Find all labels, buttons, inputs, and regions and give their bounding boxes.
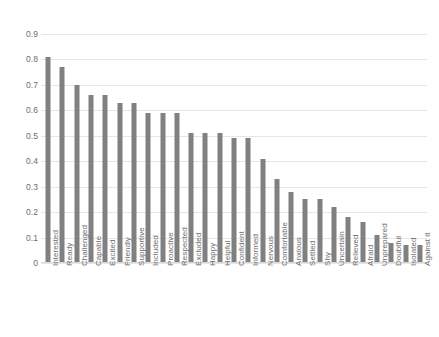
- x-tick-label: Shy: [323, 252, 331, 266]
- x-tick-label: Uncertain: [338, 231, 346, 266]
- x-tick-label: Afraid: [366, 245, 374, 266]
- bar-slot: [413, 34, 427, 263]
- y-tick-label: 0.5: [4, 131, 38, 140]
- y-axis: 00.10.20.30.40.50.60.70.80.9: [0, 34, 38, 263]
- y-tick-label: 0: [4, 259, 38, 268]
- x-label-slot: Doubtful: [384, 266, 398, 337]
- bar[interactable]: [160, 113, 165, 263]
- x-label-slot: Helpful: [213, 266, 227, 337]
- bar-slot: [198, 34, 212, 263]
- bar[interactable]: [417, 245, 422, 263]
- x-label-slot: Isolated: [398, 266, 412, 337]
- y-tick-label: 0.6: [4, 106, 38, 115]
- y-tick-label: 0.3: [4, 182, 38, 191]
- x-label-slot: Proactive: [155, 266, 169, 337]
- x-tick-label: Against it: [423, 233, 431, 266]
- x-tick-label: Ready: [66, 243, 74, 266]
- x-tick-label: Supportive: [138, 227, 146, 266]
- x-label-slot: Anxious: [284, 266, 298, 337]
- y-tick-label: 0.1: [4, 233, 38, 242]
- x-tick-label: Comfortable: [280, 222, 288, 266]
- x-label-slot: Interested: [41, 266, 55, 337]
- bar-slot: [255, 34, 269, 263]
- bar-chart: 00.10.20.30.40.50.60.70.80.9 InterestedR…: [0, 0, 439, 337]
- x-label-slot: Capable: [84, 266, 98, 337]
- bar[interactable]: [117, 103, 122, 263]
- bar-slot: [155, 34, 169, 263]
- bar-slot: [227, 34, 241, 263]
- bar-slot: [341, 34, 355, 263]
- x-label-slot: Settled: [298, 266, 312, 337]
- y-tick-label: 0.4: [4, 157, 38, 166]
- x-tick-label: Proactive: [166, 232, 174, 266]
- bar[interactable]: [260, 159, 265, 263]
- y-tick-label: 0.2: [4, 208, 38, 217]
- bar-slot: [55, 34, 69, 263]
- x-tick-label: Doubtful: [395, 236, 403, 266]
- x-label-slot: Against it: [413, 266, 427, 337]
- bar-slot: [327, 34, 341, 263]
- x-tick-label: Included: [152, 235, 160, 266]
- x-tick-label: Informed: [252, 234, 260, 266]
- x-tick-label: Friendly: [123, 237, 131, 266]
- x-tick-label: Interested: [52, 230, 60, 266]
- bar[interactable]: [360, 222, 365, 263]
- x-label-slot: Challenged: [70, 266, 84, 337]
- x-tick-label: Nervous: [266, 236, 274, 266]
- bar-slot: [241, 34, 255, 263]
- bar[interactable]: [74, 85, 79, 263]
- bar-slot: [98, 34, 112, 263]
- x-tick-label: Respected: [180, 227, 188, 266]
- x-label-slot: Confident: [227, 266, 241, 337]
- x-label-slot: Informed: [241, 266, 255, 337]
- x-label-slot: Unprepared: [370, 266, 384, 337]
- bar-slot: [213, 34, 227, 263]
- x-label-slot: Ready: [55, 266, 69, 337]
- y-tick-label: 0.9: [4, 30, 38, 39]
- x-label-slot: Included: [141, 266, 155, 337]
- x-tick-label: Relieved: [352, 234, 360, 266]
- x-tick-label: Challenged: [80, 225, 88, 266]
- bar-slot: [356, 34, 370, 263]
- bar[interactable]: [60, 67, 65, 263]
- x-tick-label: Happy: [209, 243, 217, 266]
- x-tick-label: Settled: [309, 241, 317, 266]
- bar-slot: [313, 34, 327, 263]
- x-label-slot: Nervous: [255, 266, 269, 337]
- y-tick-label: 0.8: [4, 55, 38, 64]
- bar-slot: [298, 34, 312, 263]
- bar[interactable]: [403, 245, 408, 263]
- x-label-slot: Supportive: [127, 266, 141, 337]
- bar-slot: [41, 34, 55, 263]
- x-label-slot: Uncertain: [327, 266, 341, 337]
- x-tick-label: Excited: [109, 239, 117, 266]
- bar-slot: [112, 34, 126, 263]
- x-tick-label: Excluded: [195, 233, 203, 266]
- x-label-slot: Relieved: [341, 266, 355, 337]
- x-label-slot: Excited: [98, 266, 112, 337]
- bar-slot: [398, 34, 412, 263]
- y-tick-label: 0.7: [4, 80, 38, 89]
- x-label-slot: Afraid: [356, 266, 370, 337]
- x-axis-labels: InterestedReadyChallengedCapableExcitedF…: [41, 266, 427, 337]
- x-label-slot: Excluded: [184, 266, 198, 337]
- bar[interactable]: [174, 113, 179, 263]
- x-label-slot: Comfortable: [270, 266, 284, 337]
- bar[interactable]: [317, 199, 322, 263]
- bars-layer: [41, 34, 427, 263]
- x-label-slot: Friendly: [112, 266, 126, 337]
- x-label-slot: Happy: [198, 266, 212, 337]
- plot-area: [41, 34, 427, 263]
- x-label-slot: Shy: [313, 266, 327, 337]
- x-tick-label: Isolated: [409, 238, 417, 266]
- x-tick-label: Anxious: [295, 237, 303, 266]
- x-tick-label: Unprepared: [381, 223, 389, 266]
- x-tick-label: Helpful: [223, 241, 231, 266]
- bar[interactable]: [103, 95, 108, 263]
- x-tick-label: Confident: [238, 231, 246, 266]
- x-tick-label: Capable: [95, 236, 103, 266]
- x-label-slot: Respected: [170, 266, 184, 337]
- bar[interactable]: [217, 133, 222, 263]
